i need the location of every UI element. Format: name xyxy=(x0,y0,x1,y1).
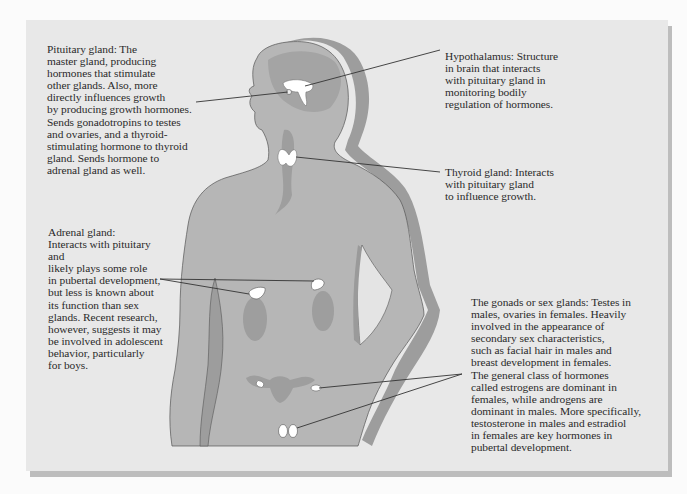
gonads-label: The gonads or sex glands: Testes in male… xyxy=(471,296,661,453)
adrenal-gland-label: Adrenal gland: Interacts with pituitary … xyxy=(48,226,168,371)
thyroid-gland-label: Thyroid gland: Interacts with pituitary … xyxy=(445,166,595,202)
right-kidney xyxy=(312,291,334,331)
left-testis xyxy=(279,425,288,438)
hypothalamus-label: Hypothalamus: Structure in brain that in… xyxy=(445,50,585,110)
right-testis xyxy=(289,425,298,438)
pituitary-gland-label: Pituitary gland: The master gland, produ… xyxy=(47,43,227,176)
left-kidney xyxy=(243,297,267,341)
